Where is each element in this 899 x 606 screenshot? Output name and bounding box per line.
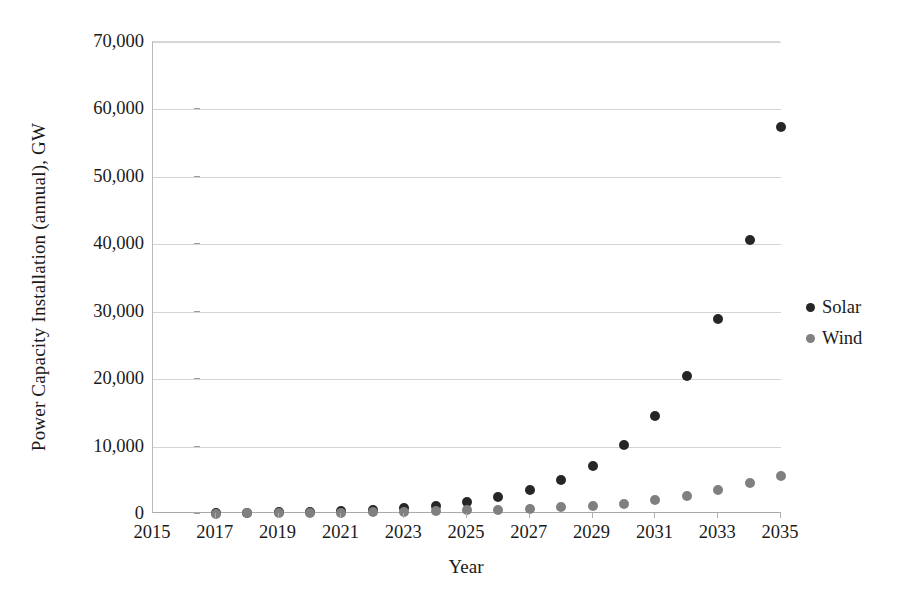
data-point-wind [588, 501, 598, 511]
x-axis-tick-label: 2025 [448, 522, 485, 543]
data-point-wind [336, 508, 346, 518]
legend-label: Solar [822, 298, 861, 317]
gridline [153, 109, 781, 110]
chart-legend: SolarWind [806, 292, 862, 354]
x-axis-tick-label: 2029 [573, 522, 610, 543]
data-point-solar [588, 461, 598, 471]
x-axis-title: Year [152, 556, 780, 578]
data-point-solar [776, 122, 786, 132]
data-point-wind [682, 491, 692, 501]
x-axis-tick-mark [529, 513, 530, 518]
y-axis-tick-label: 60,000 [52, 98, 144, 119]
data-point-wind [650, 495, 660, 505]
x-axis-tick-mark [340, 513, 341, 518]
data-point-wind [211, 509, 221, 519]
data-point-wind [242, 508, 252, 518]
plot-area [152, 41, 780, 513]
data-point-wind [305, 508, 315, 518]
legend-marker-icon [806, 303, 815, 312]
data-point-wind [619, 499, 629, 509]
data-point-solar [525, 485, 535, 495]
data-point-wind [525, 504, 535, 514]
x-axis-tick-label: 2035 [762, 522, 799, 543]
chart-figure: Power Capacity Installation (annual), GW… [0, 0, 899, 606]
x-axis-tick-label: 2019 [259, 522, 296, 543]
x-axis-tick-mark [780, 513, 781, 518]
data-point-wind [399, 507, 409, 517]
y-axis-tick-label: 10,000 [52, 435, 144, 456]
data-point-solar [713, 314, 723, 324]
y-axis-tick-label: 20,000 [52, 368, 144, 389]
x-axis-tick-label: 2015 [134, 522, 171, 543]
data-point-wind [745, 478, 755, 488]
x-axis-tick-mark [592, 513, 593, 518]
data-point-wind [274, 508, 284, 518]
data-point-wind [713, 485, 723, 495]
legend-label: Wind [822, 329, 862, 348]
data-point-wind [556, 502, 566, 512]
y-axis-tick-labels: 010,00020,00030,00040,00050,00060,00070,… [48, 0, 144, 606]
gridline [153, 447, 781, 448]
x-axis-tick-mark [466, 513, 467, 518]
data-point-wind [368, 507, 378, 517]
data-point-wind [431, 506, 441, 516]
y-axis-title: Power Capacity Installation (annual), GW [28, 67, 50, 507]
y-axis-tick-label: 50,000 [52, 165, 144, 186]
gridline [153, 177, 781, 178]
x-axis-tick-mark [717, 513, 718, 518]
x-axis-tick-mark [403, 513, 404, 518]
y-axis-tick-label: 30,000 [52, 300, 144, 321]
data-point-wind [493, 505, 503, 515]
x-axis-tick-label: 2031 [636, 522, 673, 543]
legend-item-solar: Solar [806, 292, 862, 323]
x-axis-tick-label: 2021 [322, 522, 359, 543]
x-axis-tick-mark [278, 513, 279, 518]
x-axis-tick-label: 2033 [699, 522, 736, 543]
data-point-solar [493, 492, 503, 502]
data-point-solar [682, 371, 692, 381]
data-point-solar [556, 475, 566, 485]
gridline [153, 42, 781, 43]
legend-marker-icon [806, 334, 815, 343]
x-axis-tick-mark [215, 513, 216, 518]
y-axis-tick-label: 70,000 [52, 31, 144, 52]
x-axis-tick-mark [654, 513, 655, 518]
data-point-wind [776, 471, 786, 481]
y-axis-tick-label: 0 [52, 503, 144, 524]
gridline [153, 312, 781, 313]
gridline [153, 244, 781, 245]
data-point-solar [650, 411, 660, 421]
data-point-solar [745, 235, 755, 245]
x-axis-tick-label: 2017 [196, 522, 233, 543]
data-point-wind [462, 505, 472, 515]
x-axis-tick-label: 2023 [385, 522, 422, 543]
y-axis-tick-label: 40,000 [52, 233, 144, 254]
data-point-solar [619, 440, 629, 450]
legend-item-wind: Wind [806, 323, 862, 354]
y-axis-tick-mark [194, 513, 200, 514]
x-axis-tick-label: 2027 [510, 522, 547, 543]
